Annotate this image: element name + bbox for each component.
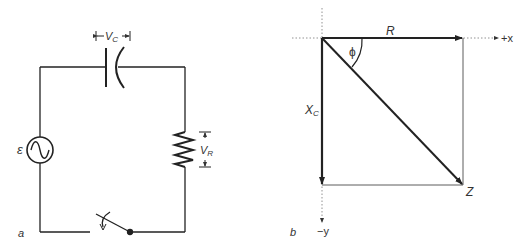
xc-label: XC (304, 103, 319, 118)
emf-label: ε (17, 142, 23, 157)
figure: VC VR ε a R ϕ XC Z +x −y b (0, 0, 530, 247)
circuit-diagram (27, 31, 211, 235)
panel-b-label: b (290, 226, 296, 238)
vc-label: VC (105, 30, 118, 44)
y-axis-label: −y (317, 225, 329, 237)
phi-label: ϕ (349, 45, 356, 59)
r-label: R (386, 24, 395, 38)
vr-label: VR (200, 144, 213, 158)
z-label: Z (465, 185, 474, 199)
ac-source-icon (27, 137, 53, 163)
panel-a-label: a (18, 227, 24, 239)
resistor-icon (175, 132, 193, 167)
switch-icon (96, 212, 133, 235)
z-vector (322, 38, 462, 184)
x-axis-label: +x (501, 32, 513, 44)
